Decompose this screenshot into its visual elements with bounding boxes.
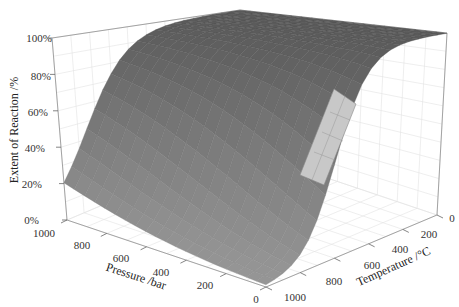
p-tick-800: 800 [74,239,91,251]
z-axis-labels: 0% 20% 40% 60% 80% 100% [22,32,52,226]
surface-chart: 0% 20% 40% 60% 80% 100% Extent of Reacti… [0,0,459,307]
z-tick-80: 80% [31,70,51,82]
p-tick-200: 200 [197,279,214,291]
z-axis-line [52,38,67,220]
p-tick-1000: 1000 [33,227,56,239]
z-tick-20: 20% [22,178,42,190]
z-tick-60: 60% [28,106,48,118]
z-tick-0: 0% [24,214,39,226]
t-tick-800: 800 [326,275,343,287]
t-tick-200: 200 [421,228,438,240]
t-tick-0: 0 [449,212,455,224]
z-tick-100: 100% [26,32,52,44]
z-axis-title: Extent of Reaction /% [7,77,21,183]
t-tick-1000: 1000 [284,291,307,303]
p-tick-0: 0 [253,293,259,305]
pressure-axis-title: Pressure /bar [104,260,168,293]
z-tick-40: 40% [25,142,45,154]
reaction-surface [64,10,447,285]
